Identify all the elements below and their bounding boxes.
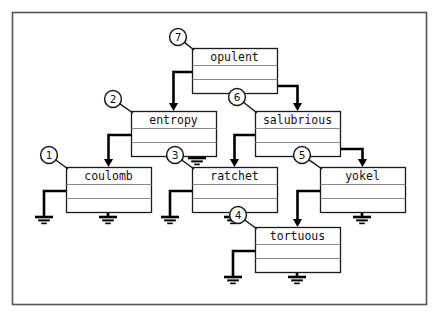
connection-arrowhead: [230, 159, 239, 167]
callout-1[interactable]: 1: [41, 147, 68, 169]
connection-arrowhead: [104, 159, 113, 167]
connection-arrowhead: [293, 103, 302, 111]
block-title: entropy: [149, 113, 198, 127]
connection-arrowhead: [169, 103, 178, 111]
block-coulomb[interactable]: coulomb: [67, 168, 152, 213]
callout-number: 6: [234, 91, 241, 103]
diagram-canvas: opulententropysalubriouscoulombratchetyo…: [0, 0, 438, 317]
diagram-svg: opulententropysalubriouscoulombratchetyo…: [0, 0, 438, 317]
callout-number: 5: [299, 149, 306, 161]
connection-arrowhead: [293, 219, 302, 227]
callout-number: 1: [46, 149, 53, 161]
block-title: tortuous: [270, 229, 325, 243]
connection-arrowhead: [358, 159, 367, 167]
block-title: coulomb: [84, 169, 133, 183]
block-title: salubrious: [263, 113, 332, 127]
block-tortuous[interactable]: tortuous: [256, 228, 341, 273]
callout-number: 2: [110, 93, 117, 105]
callout-number: 4: [235, 209, 242, 221]
callout-leader-line: [120, 104, 133, 113]
callout-leader-line: [56, 160, 68, 169]
callout-number: 7: [175, 31, 182, 43]
callout-7[interactable]: 7: [170, 29, 194, 50]
callout-leader-line: [309, 160, 322, 169]
callout-number: 3: [172, 149, 179, 161]
block-title: yokel: [345, 169, 380, 183]
callout-leader-line: [244, 102, 257, 113]
callout-leader-line: [185, 42, 194, 50]
block-title: ratchet: [210, 169, 258, 183]
block-yokel[interactable]: yokel: [321, 168, 406, 213]
block-opulent[interactable]: opulent: [193, 49, 278, 94]
callout-2[interactable]: 2: [105, 91, 133, 113]
callout-leader-line: [245, 220, 257, 229]
block-title: opulent: [210, 50, 258, 64]
block-ratchet[interactable]: ratchet: [193, 168, 278, 213]
